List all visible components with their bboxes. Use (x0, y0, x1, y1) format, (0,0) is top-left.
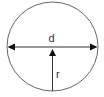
arrowhead-right-icon (90, 44, 98, 51)
radius-label: r (56, 68, 60, 80)
arrowhead-left-icon (8, 44, 16, 51)
diameter-label: d (49, 32, 55, 44)
arrowhead-up-icon (49, 49, 56, 56)
circle-diagram: d r (0, 0, 104, 97)
